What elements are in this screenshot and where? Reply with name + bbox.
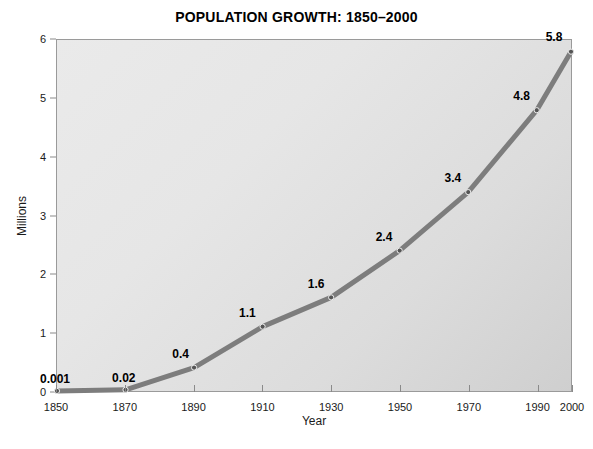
data-point-marker: [191, 365, 196, 370]
x-tick-mark: [469, 385, 470, 392]
y-tick-label: 4: [40, 151, 46, 163]
plot-area: 0.0010.020.41.11.62.43.44.85.8: [56, 39, 572, 392]
data-point-label: 2.4: [376, 231, 393, 243]
x-tick-label: 1970: [457, 401, 481, 413]
data-line: [57, 52, 571, 391]
data-point-label: 0.02: [112, 372, 135, 384]
data-point-label: 0.4: [172, 348, 189, 360]
y-axis: 0123456: [0, 39, 56, 393]
data-point-marker: [466, 190, 471, 195]
data-point-marker: [534, 108, 539, 113]
chart-title: POPULATION GROWTH: 1850–2000: [0, 9, 593, 25]
x-tick-label: 1950: [388, 401, 412, 413]
y-tick-label: 1: [40, 327, 46, 339]
x-tick-label: 1930: [319, 401, 343, 413]
chart-figure: POPULATION GROWTH: 1850–2000 Millions 01…: [0, 0, 593, 449]
x-tick-mark: [538, 385, 539, 392]
x-tick-label: 1890: [181, 401, 205, 413]
x-tick-mark: [262, 385, 263, 392]
data-point-label: 1.6: [308, 278, 325, 290]
y-tick-label: 6: [40, 33, 46, 45]
data-point-label: 0.001: [40, 373, 70, 385]
x-tick-label: 1870: [113, 401, 137, 413]
x-tick-mark: [331, 385, 332, 392]
data-point-label: 4.8: [513, 90, 530, 102]
data-point-label: 3.4: [444, 172, 461, 184]
x-tick-label: 1990: [525, 401, 549, 413]
x-tick-mark: [400, 385, 401, 392]
x-tick-mark: [125, 385, 126, 392]
data-point-label: 5.8: [546, 31, 563, 43]
data-point-marker: [329, 295, 334, 300]
y-tick-label: 0: [40, 386, 46, 398]
x-tick-mark: [194, 385, 195, 392]
plot-svg: [57, 40, 571, 391]
x-tick-mark: [572, 385, 573, 392]
data-point-marker: [397, 248, 402, 253]
y-tick-label: 5: [40, 92, 46, 104]
x-tick-label: 1850: [44, 401, 68, 413]
data-point-marker: [568, 49, 573, 54]
x-tick-label: 2000: [560, 401, 584, 413]
x-axis-title: Year: [56, 414, 572, 428]
y-tick-label: 3: [40, 210, 46, 222]
x-tick-mark: [56, 385, 57, 392]
y-tick-label: 2: [40, 268, 46, 280]
data-point-label: 1.1: [239, 307, 256, 319]
x-tick-label: 1910: [250, 401, 274, 413]
data-point-marker: [260, 324, 265, 329]
